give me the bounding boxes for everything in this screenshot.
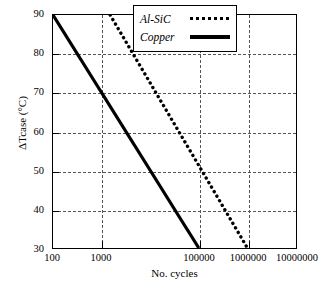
y-tick-label: 30 — [0, 243, 44, 255]
y-tickmark — [53, 133, 59, 134]
x-tickmark — [249, 241, 250, 248]
legend-swatch-solid — [190, 32, 230, 42]
legend-item-copper: Copper — [140, 28, 230, 46]
gridline-horizontal — [53, 93, 296, 94]
x-tick-label: 100000 — [183, 252, 215, 264]
gridline-horizontal — [53, 172, 296, 173]
y-tick-label: 80 — [0, 47, 44, 59]
x-tick-label: 1000 — [91, 252, 112, 264]
legend-label-copper: Copper — [140, 31, 175, 43]
gridline-vertical — [249, 15, 250, 248]
gridline-horizontal — [53, 133, 296, 134]
y-tick-label: 90 — [0, 8, 44, 20]
y-tickmark — [53, 172, 59, 173]
y-tickmark — [53, 54, 59, 55]
x-tickmark — [102, 241, 103, 248]
gridline-horizontal — [53, 211, 296, 212]
y-tick-label: 40 — [0, 204, 44, 216]
legend: Al-SiC Copper — [133, 5, 237, 52]
gridline-vertical — [102, 15, 103, 248]
y-tick-label: 50 — [0, 165, 44, 177]
legend-swatch-dotted — [190, 14, 230, 24]
y-tickmark — [53, 93, 59, 94]
y-tick-label: 60 — [0, 126, 44, 138]
x-tick-label: 100 — [44, 252, 60, 264]
chart-figure: ΔTcase (°C) No. cycles 30405060708090 10… — [0, 0, 322, 291]
y-axis-title: ΔTcase (°C) — [16, 43, 28, 203]
gridline-horizontal — [53, 54, 296, 55]
legend-item-al-sic: Al-SiC — [140, 10, 230, 28]
x-tickmark — [200, 241, 201, 248]
y-tick-label: 70 — [0, 86, 44, 98]
x-tick-label: 1000000 — [230, 252, 267, 264]
y-tickmark — [53, 211, 59, 212]
legend-label-al-sic: Al-SiC — [140, 13, 171, 25]
x-axis-title: No. cycles — [52, 267, 297, 279]
x-tick-label: 10000000 — [276, 252, 318, 264]
